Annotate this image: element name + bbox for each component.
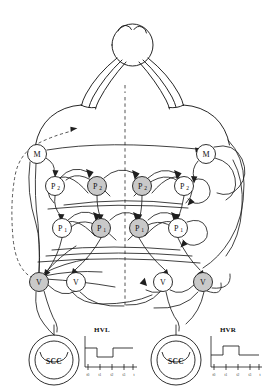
figure-canvas: MMP2P2P2P2P1P1P1P1VVVV SCC SCC HVL (0, 0, 264, 389)
hvl-tick-3: t3 (123, 373, 126, 377)
node-layer: MMP2P2P2P2P1P1P1P1VVVV (28, 145, 216, 292)
hvl-tick-0: t0 (87, 373, 90, 377)
node-p1-l2[interactable]: P1 (53, 219, 72, 238)
body-outline (36, 24, 230, 145)
node-p1-r1[interactable]: P1 (130, 219, 149, 238)
node-circle (92, 219, 111, 238)
scc-left-label: SCC (46, 357, 62, 366)
node-circle (46, 177, 65, 196)
scc-right-label: SCC (168, 357, 184, 366)
node-v-l1[interactable]: V (67, 273, 86, 292)
node-circle (53, 219, 72, 238)
hvr-title: HVR (220, 326, 237, 334)
node-p1-r2[interactable]: P1 (169, 219, 188, 238)
scc-right[interactable]: SCC (151, 335, 201, 385)
node-v-r2[interactable]: V (194, 273, 213, 292)
hvr-tick-3: t3 (249, 373, 252, 377)
hvl-tick-1: t1 (99, 373, 102, 377)
node-circle (169, 219, 188, 238)
node-v-l2[interactable]: V (30, 273, 49, 292)
node-m-r[interactable]: M (197, 145, 216, 164)
node-circle (30, 273, 49, 292)
node-p1-l1[interactable]: P1 (92, 219, 111, 238)
hvl-tick-4: t (134, 373, 135, 377)
node-p2-r1[interactable]: P2 (133, 177, 152, 196)
node-v-r1[interactable]: V (154, 273, 173, 292)
node-circle (88, 177, 107, 196)
hvr-tick-2: t2 (237, 373, 240, 377)
neural-circuit-diagram: MMP2P2P2P2P1P1P1P1VVVV SCC SCC HVL (0, 0, 264, 389)
node-circle (197, 145, 216, 164)
node-circle (175, 177, 194, 196)
node-p2-r2[interactable]: P2 (175, 177, 194, 196)
node-circle (130, 219, 149, 238)
hvl-ticks: t0 t1 t2 t3 t (87, 364, 135, 377)
hvl-title: HVL (94, 326, 110, 334)
hvr-ticks: t0 t1 t2 t3 t (213, 364, 261, 377)
hvr-tick-0: t0 (213, 373, 216, 377)
node-circle (28, 145, 47, 164)
scc-left[interactable]: SCC (29, 335, 79, 385)
node-circle (133, 177, 152, 196)
node-p2-l2[interactable]: P2 (46, 177, 65, 196)
hvr-tick-1: t1 (225, 373, 228, 377)
node-circle (154, 273, 173, 292)
node-circle (67, 273, 86, 292)
node-m-l[interactable]: M (28, 145, 47, 164)
node-p2-l1[interactable]: P2 (88, 177, 107, 196)
node-circle (194, 273, 213, 292)
waveform-hvr: HVR t0 t1 t2 t3 t (211, 326, 262, 377)
hvl-tick-2: t2 (111, 373, 114, 377)
waveform-hvl: HVL t0 t1 t2 t3 t (85, 326, 137, 377)
hvr-tick-4: t (260, 373, 261, 377)
